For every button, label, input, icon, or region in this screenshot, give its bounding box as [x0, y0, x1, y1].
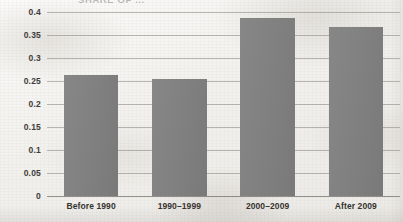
bar [64, 75, 119, 196]
y-axis-tick-label: 0.1 [0, 145, 41, 155]
x-axis-tick-label: 2000–2009 [224, 201, 312, 211]
y-axis-tick-label: 0.05 [0, 168, 41, 178]
x-axis-tick-label: After 2009 [312, 201, 400, 211]
plot-area: 00.050.10.150.20.250.30.350.4 Before 199… [47, 12, 400, 196]
bar [152, 79, 207, 196]
chart-screenshot: SHARE OF ... 00.050.10.150.20.250.30.350… [0, 0, 403, 222]
y-axis-tick-label: 0 [0, 191, 41, 201]
x-axis-tick-label: Before 1990 [47, 201, 135, 211]
x-axis-tick-label: 1990–1999 [135, 201, 223, 211]
y-axis-tick-label: 0.2 [0, 99, 41, 109]
y-axis-tick-label: 0.35 [0, 30, 41, 40]
y-axis-tick-label: 0.3 [0, 53, 41, 63]
chart-title: SHARE OF ... [78, 0, 278, 4]
gridline [47, 12, 400, 13]
y-axis-tick-label: 0.25 [0, 76, 41, 86]
gridline [47, 196, 400, 197]
bar [240, 18, 295, 196]
bar [329, 27, 384, 196]
y-axis-tick-label: 0.4 [0, 7, 41, 17]
y-axis-tick-label: 0.15 [0, 122, 41, 132]
